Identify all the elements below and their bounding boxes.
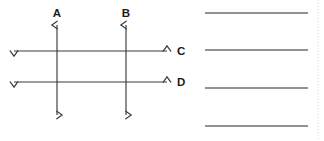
line-label-a: A (53, 7, 61, 19)
line-label-b: B (122, 7, 130, 19)
answer-lines (205, 13, 308, 126)
geometry-figure: ABCD (0, 0, 324, 141)
figure-labels: ABCD (53, 7, 185, 88)
line-label-d: D (177, 76, 185, 88)
line-label-c: C (177, 45, 185, 57)
worksheet-page: ABCD (0, 0, 324, 141)
figure-lines (14, 25, 167, 115)
